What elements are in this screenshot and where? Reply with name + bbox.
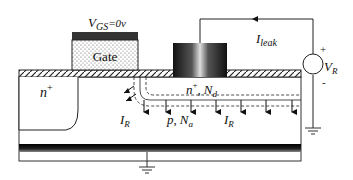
- drain-contact: [173, 43, 227, 77]
- ground-icon-right: [305, 128, 321, 134]
- gate: Gate VGS=0v: [72, 15, 138, 70]
- voltage-plus-label: +: [320, 43, 326, 55]
- gate-bias-label: VGS=0v: [88, 15, 126, 32]
- mosfet-leakage-diagram: n+ Gate VGS=0v n+,Nd: [0, 0, 353, 180]
- source-region: n+: [19, 77, 78, 130]
- back-contact: [19, 144, 301, 152]
- voltage-source-label: VR: [324, 59, 338, 76]
- gate-label: Gate: [93, 49, 118, 64]
- leak-arrow-icon: [252, 16, 258, 22]
- oxide-layer: [19, 70, 301, 77]
- voltage-minus-label: -: [322, 76, 326, 88]
- voltage-source: + VR -: [303, 43, 338, 88]
- leak-current-label: Ileak: [255, 31, 278, 48]
